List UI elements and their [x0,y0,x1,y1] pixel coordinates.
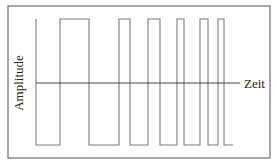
y-axis-label: Amplitude [11,55,26,111]
x-axis-label: Zeit [244,76,265,91]
diagram-canvas: Amplitude Zeit [0,0,277,165]
square-wave [36,19,233,145]
diagram-frame [8,6,270,158]
